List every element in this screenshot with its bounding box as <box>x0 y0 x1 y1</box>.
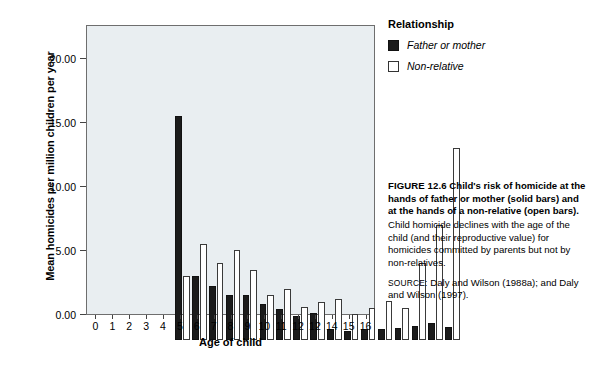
x-axis-tick-label: 14 <box>326 320 338 332</box>
y-axis-tick-label: 0.00 <box>56 308 86 322</box>
open-square-icon <box>388 61 399 72</box>
bar-group <box>191 52 208 340</box>
x-axis-tick-label: 12 <box>292 320 304 332</box>
bar-group <box>258 52 275 340</box>
x-axis-tick-mark <box>146 315 147 319</box>
caption-source: SOURCE: Daly and Wilson (1988a); and Dal… <box>388 277 586 302</box>
bar-group <box>208 52 225 340</box>
x-axis-tick-mark <box>298 315 299 319</box>
x-axis-tick-mark <box>264 315 265 319</box>
x-axis-tick-label: 8 <box>228 320 234 332</box>
x-axis-tick-label: 12 <box>309 320 321 332</box>
legend-item-label: Father or mother <box>407 39 485 51</box>
y-axis-tick-label: 15.00 <box>50 116 86 130</box>
x-axis-tick-label: 4 <box>160 320 166 332</box>
x-axis-tick-label: 0 <box>93 320 99 332</box>
bar-group <box>343 52 360 340</box>
bar-non-relative <box>402 308 409 340</box>
x-axis-tick-label: 3 <box>143 320 149 332</box>
x-axis-tick-label: 15 <box>343 320 355 332</box>
y-axis-ticks: 0.005.0010.0015.0020.00 <box>0 25 86 315</box>
figure-number: FIGURE 12.6 <box>388 180 447 191</box>
x-axis-tick-mark <box>247 315 248 319</box>
x-axis-tick-label: 11 <box>276 320 287 332</box>
bar-non-relative <box>386 301 393 340</box>
x-axis-tick-mark <box>366 315 367 319</box>
x-axis-tick-mark <box>112 315 113 319</box>
legend: Relationship Father or mother Non-relati… <box>388 18 588 81</box>
x-axis-tick-mark <box>315 315 316 319</box>
x-axis-tick-label: 2 <box>126 320 132 332</box>
bar-father-or-mother <box>428 323 435 340</box>
caption-headline: FIGURE 12.6 Child's risk of homicide at … <box>388 180 586 218</box>
figure-caption: FIGURE 12.6 Child's risk of homicide at … <box>388 180 586 302</box>
x-axis-tick-label: 16 <box>360 320 372 332</box>
x-axis-title: Age of child <box>86 336 375 348</box>
bar-father-or-mother <box>412 326 419 340</box>
bar-father-or-mother <box>395 328 402 340</box>
x-axis-tick-mark <box>231 315 232 319</box>
bar-group <box>225 52 242 340</box>
bar-group <box>326 52 343 340</box>
bar-group <box>292 52 309 340</box>
x-axis-ticks: 012345678910111212141516 <box>87 315 374 337</box>
y-axis-tick-label: 5.00 <box>56 244 86 258</box>
bar-group <box>309 52 326 340</box>
x-axis-tick-mark <box>281 315 282 319</box>
bar-chart: Mean homicides per million children per … <box>0 0 380 368</box>
legend-item-label: Non-relative <box>407 60 464 72</box>
x-axis-tick-mark <box>180 315 181 319</box>
y-axis-tick-label: 10.00 <box>50 180 86 194</box>
bar-father-or-mother <box>175 116 182 340</box>
x-axis-tick-label: 1 <box>109 320 115 332</box>
bar-father-or-mother <box>378 329 385 340</box>
legend-title: Relationship <box>388 18 588 30</box>
plot-area <box>86 25 375 315</box>
caption-body: Child homicide declines with the age of … <box>388 219 586 270</box>
x-axis-tick-label: 9 <box>244 320 250 332</box>
bar-group <box>275 52 292 340</box>
x-axis-tick-mark <box>197 315 198 319</box>
x-axis-tick-mark <box>214 315 215 319</box>
bar-group <box>174 52 191 340</box>
x-axis-tick-mark <box>163 315 164 319</box>
y-axis-tick-label: 20.00 <box>50 52 86 66</box>
x-axis-tick-label: 6 <box>194 320 200 332</box>
bar-group <box>360 52 377 340</box>
bar-group <box>242 52 259 340</box>
caption-source-label: SOURCE: <box>388 278 428 288</box>
legend-item-father-or-mother: Father or mother <box>388 39 588 51</box>
figure-12-6: Mean homicides per million children per … <box>0 0 592 368</box>
bar-father-or-mother <box>445 327 452 340</box>
solid-square-icon <box>388 40 399 51</box>
x-axis-tick-label: 5 <box>177 320 183 332</box>
x-axis-tick-label: 7 <box>211 320 217 332</box>
x-axis-tick-mark <box>95 315 96 319</box>
legend-item-non-relative: Non-relative <box>388 60 588 72</box>
x-axis-tick-mark <box>349 315 350 319</box>
x-axis-tick-mark <box>129 315 130 319</box>
x-axis-tick-label: 10 <box>258 320 270 332</box>
x-axis-tick-mark <box>332 315 333 319</box>
